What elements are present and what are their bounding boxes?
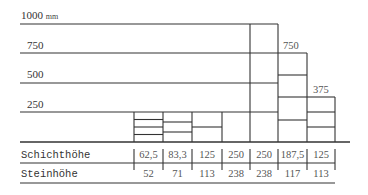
schichthoehe-col7: 125	[307, 150, 335, 161]
steinhoehe-col3: 113	[192, 169, 222, 180]
axis-label-1000: 1000 mm	[21, 10, 58, 21]
steinhoehe-col4: 238	[222, 169, 250, 180]
axis-label-750: 750	[27, 40, 44, 51]
schichthoehe-col5: 250	[250, 150, 278, 161]
schichthoehe-col2: 83,3	[163, 150, 192, 161]
schichthoehe-col1: 62,5	[134, 150, 163, 161]
steinhoehe-col2: 71	[163, 169, 192, 180]
schichthoehe-col6: 187,5	[278, 150, 307, 161]
schichthoehe-col4: 250	[222, 150, 250, 161]
axis-unit: mm	[46, 12, 58, 21]
row-label-schichthoehe: Schichthöhe	[21, 150, 90, 161]
axis-value-1000: 1000	[21, 9, 43, 21]
steinhoehe-col5: 238	[250, 169, 278, 180]
masonry-course-diagram: 1000 mm 750 500 250 750 375 Schichthöhe …	[0, 0, 368, 195]
annotation-750: 750	[283, 41, 299, 52]
row-label-steinhoehe: Steinhöhe	[21, 169, 78, 180]
annotation-375: 375	[313, 85, 329, 96]
steinhoehe-col7: 113	[307, 169, 335, 180]
axis-label-500: 500	[27, 69, 44, 80]
steinhoehe-col1: 52	[134, 169, 163, 180]
axis-label-250: 250	[27, 99, 44, 110]
steinhoehe-col6: 117	[278, 169, 307, 180]
diagram-lines	[0, 0, 368, 195]
schichthoehe-col3: 125	[192, 150, 222, 161]
